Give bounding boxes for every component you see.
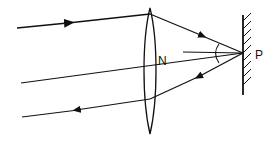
angle-arc <box>216 44 220 63</box>
normal-at-P <box>183 52 243 53</box>
incident-ray-top <box>17 14 243 53</box>
ray-diagram: N P <box>0 0 279 145</box>
principal-axis-ray <box>21 53 243 83</box>
label-N: N <box>158 54 167 68</box>
label-P: P <box>255 48 263 62</box>
reflected-ray-bottom <box>22 53 243 117</box>
plane-mirror <box>243 13 251 95</box>
convex-lens <box>144 8 156 134</box>
